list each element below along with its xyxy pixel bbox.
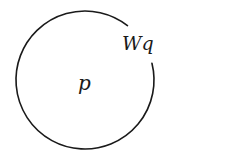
label-boundary-wq: Wq — [122, 32, 154, 54]
diagram-canvas: p Wq — [0, 0, 242, 159]
label-center-p: p — [78, 71, 91, 95]
